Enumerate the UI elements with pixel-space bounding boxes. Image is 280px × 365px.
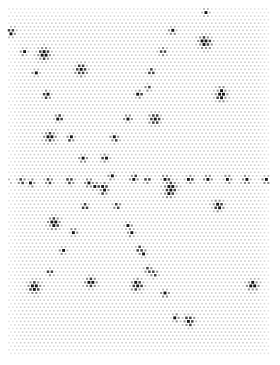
scatter-figure bbox=[0, 0, 280, 365]
dot-lattice-plot bbox=[0, 0, 280, 365]
